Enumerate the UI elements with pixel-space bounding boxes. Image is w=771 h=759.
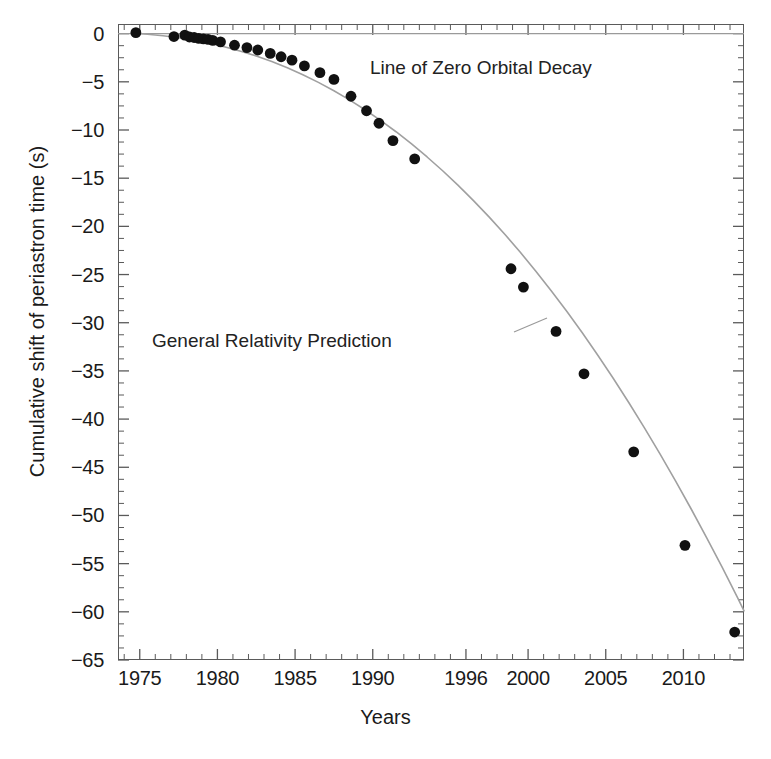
y-tick-label: −65 bbox=[38, 650, 104, 670]
gr-prediction-curve bbox=[134, 33, 744, 611]
y-tick-label: 0 bbox=[38, 24, 104, 44]
y-axis-title: Cumulative shift of periastron time (s) bbox=[26, 102, 49, 522]
chart-canvas bbox=[0, 0, 771, 759]
y-tick-label: −55 bbox=[38, 554, 104, 574]
figure-orbital-decay: 0−5−10−15−20−25−30−35−40−45−50−55−60−65 … bbox=[0, 0, 771, 759]
x-tick-label: 1980 bbox=[172, 668, 262, 688]
x-tick-label: 2005 bbox=[561, 668, 651, 688]
annotation-leader-line bbox=[514, 318, 547, 332]
x-tick-label: 1975 bbox=[95, 668, 185, 688]
x-tick-label: 2010 bbox=[638, 668, 728, 688]
x-tick-label: 1990 bbox=[328, 668, 418, 688]
annotation-general-relativity-prediction: General Relativity Prediction bbox=[152, 330, 392, 352]
annotation-line-of-zero-orbital-decay: Line of Zero Orbital Decay bbox=[370, 57, 592, 79]
x-axis-title: Years bbox=[0, 706, 771, 729]
y-tick-label: −5 bbox=[38, 72, 104, 92]
x-tick-label: 1985 bbox=[250, 668, 340, 688]
y-tick-label: −60 bbox=[38, 602, 104, 622]
x-tick-label: 2000 bbox=[483, 668, 573, 688]
